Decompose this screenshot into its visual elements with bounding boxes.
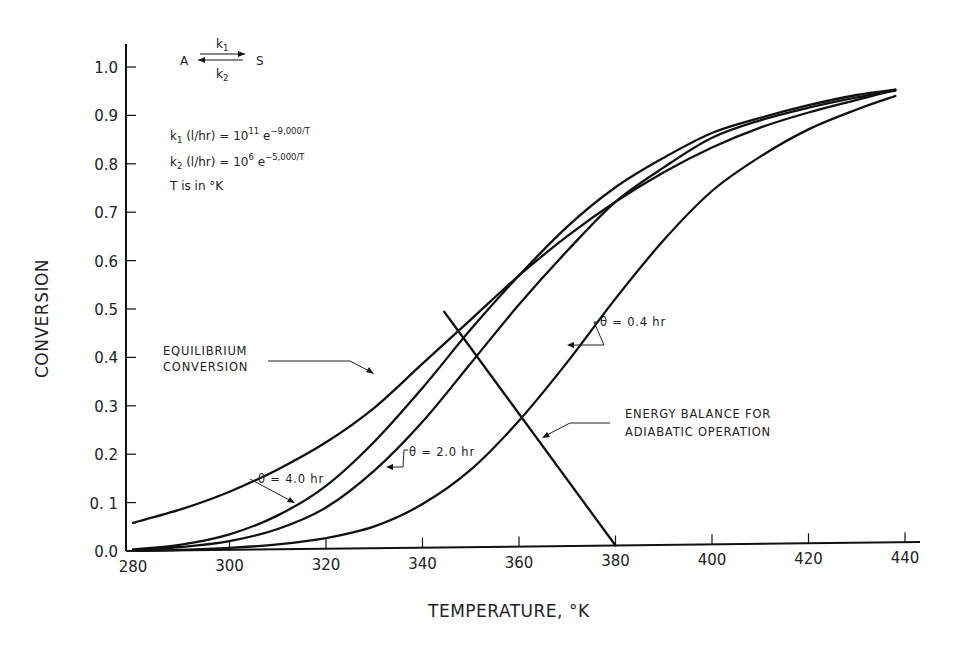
x-tick-label: 340 bbox=[408, 555, 437, 573]
arrowhead-icon bbox=[386, 464, 393, 470]
y-axis-title: CONVERSION bbox=[32, 259, 52, 378]
y-tick-label: 0. 1 bbox=[89, 495, 118, 513]
y-tick-label: 0.9 bbox=[94, 107, 118, 125]
svg-text:θ = 0.4 hr: θ = 0.4 hr bbox=[600, 315, 666, 329]
y-tick-label: 0.2 bbox=[94, 446, 118, 464]
arrowhead-icon bbox=[542, 432, 550, 438]
leader-line bbox=[545, 423, 610, 436]
energy-balance-line bbox=[444, 312, 615, 546]
y-tick-label: 0.5 bbox=[94, 301, 118, 319]
annotation-energy-balance: ENERGY BALANCE FOR ADIABATIC OPERATION bbox=[542, 407, 771, 439]
k1-equation: k1 (l/hr) = 1011 e−9,000/T bbox=[170, 126, 311, 145]
y-tick-label: 0.8 bbox=[94, 156, 118, 174]
forward-arrowhead-icon bbox=[238, 51, 245, 57]
x-tick-label: 280 bbox=[119, 558, 148, 576]
x-tick-label: 320 bbox=[312, 556, 341, 574]
y-tick-label: 0.7 bbox=[94, 204, 118, 222]
x-tick-label: 420 bbox=[794, 550, 823, 568]
axes bbox=[126, 44, 920, 551]
x-tick-label: 380 bbox=[601, 552, 630, 570]
svg-text:ADIABATIC OPERATION: ADIABATIC OPERATION bbox=[625, 425, 771, 439]
y-ticks: 0.00. 10.20.30.40.50.60.70.80.91.0 bbox=[89, 59, 136, 561]
svg-text:θ = 2.0 hr: θ = 2.0 hr bbox=[409, 445, 475, 459]
arrowhead-icon bbox=[287, 497, 295, 503]
k2-equation: k2 (l/hr) = 106 e−5,000/T bbox=[170, 152, 305, 171]
svg-text:θ = 4.0 hr: θ = 4.0 hr bbox=[258, 472, 324, 486]
x-axis-title: TEMPERATURE, °K bbox=[427, 601, 590, 621]
reactant-label: A bbox=[180, 54, 189, 68]
arrowhead-icon bbox=[567, 342, 574, 348]
x-tick-label: 400 bbox=[698, 551, 727, 569]
y-tick-label: 1.0 bbox=[94, 59, 118, 77]
svg-text:CONVERSION: CONVERSION bbox=[163, 360, 248, 374]
x-tick-label: 360 bbox=[505, 554, 534, 572]
k1-label: k1 bbox=[216, 37, 228, 53]
temperature-unit-note: T is in °K bbox=[169, 179, 224, 193]
y-tick-label: 0.4 bbox=[94, 349, 118, 367]
x-tick-label: 440 bbox=[891, 549, 920, 567]
leader-line bbox=[570, 322, 604, 345]
k2-label: k2 bbox=[216, 67, 228, 83]
svg-text:ENERGY BALANCE FOR: ENERGY BALANCE FOR bbox=[625, 407, 771, 421]
annotation-theta-4: θ = 4.0 hr bbox=[250, 472, 324, 503]
annotation-theta-2: θ = 2.0 hr bbox=[386, 445, 475, 470]
arrowhead-icon bbox=[366, 367, 374, 374]
reaction-scheme: A S k1 k2 bbox=[180, 37, 264, 83]
annotation-equilibrium: EQUILIBRIUM CONVERSION bbox=[163, 344, 374, 374]
svg-text:EQUILIBRIUM: EQUILIBRIUM bbox=[163, 344, 247, 358]
rate-equations: k1 (l/hr) = 1011 e−9,000/T k2 (l/hr) = 1… bbox=[169, 126, 311, 193]
y-tick-label: 0.6 bbox=[94, 253, 118, 271]
reverse-arrowhead-icon bbox=[198, 57, 205, 63]
x-tick-label: 300 bbox=[215, 557, 244, 575]
leader-line bbox=[268, 361, 373, 373]
product-label: S bbox=[256, 54, 264, 68]
conversion-temperature-chart: 0.00. 10.20.30.40.50.60.70.80.91.0 28030… bbox=[0, 0, 958, 650]
y-tick-label: 0.0 bbox=[94, 543, 118, 561]
leader-line bbox=[388, 450, 408, 467]
y-tick-label: 0.3 bbox=[94, 398, 118, 416]
